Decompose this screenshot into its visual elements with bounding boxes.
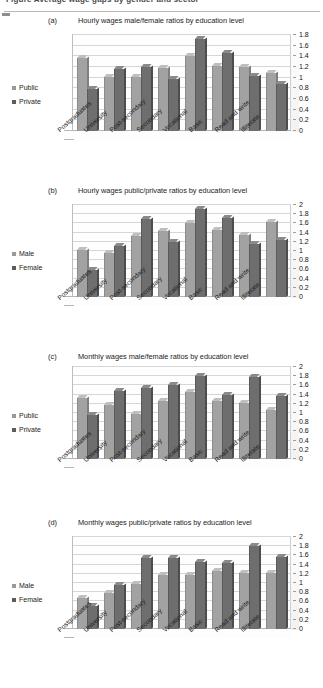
legend-swatch-icon <box>12 584 16 588</box>
y-axis-tick-mark <box>293 412 296 413</box>
y-axis-tick-mark <box>293 366 296 367</box>
bar-group <box>182 34 209 131</box>
legend-item[interactable]: Female <box>12 596 64 603</box>
legend-swatch-icon <box>12 100 16 104</box>
legend-item[interactable]: Male <box>12 250 64 257</box>
y-axis-tick-label: 0.8 <box>299 84 309 91</box>
legend-item[interactable]: Private <box>12 98 64 105</box>
y-axis-tick-mark <box>293 241 296 242</box>
plot-floor <box>64 458 291 468</box>
y-axis-tick-mark <box>293 87 296 88</box>
y-axis-tick-label: 0.2 <box>299 445 309 452</box>
bar-face <box>77 398 87 459</box>
bar-face <box>185 56 195 131</box>
y-axis-tick-label: 1 <box>299 73 303 80</box>
panel-letter: (a) <box>48 16 57 25</box>
bar[interactable] <box>185 389 195 459</box>
y-axis-tick-mark <box>293 250 296 251</box>
y-axis: 21.81.61.41.210.80.60.40.20 <box>293 536 323 630</box>
bar-group <box>262 536 289 629</box>
y-axis-tick-label: 0.4 <box>299 105 309 112</box>
y-axis-tick-mark <box>293 55 296 56</box>
y-axis-tick-label: 1.2 <box>299 63 309 70</box>
legend-label: Male <box>19 250 34 257</box>
bar-side <box>205 561 207 629</box>
y-axis-tick-mark <box>293 98 296 99</box>
y-axis: 21.81.61.41.210.80.60.40.20 <box>293 204 323 298</box>
legend-item[interactable]: Private <box>12 426 64 433</box>
y-axis-tick-label: 1.6 <box>299 551 309 558</box>
y-axis-tick-mark <box>293 582 296 583</box>
bar[interactable] <box>266 70 276 131</box>
y-axis-tick-label: 1.6 <box>299 41 309 48</box>
bar[interactable] <box>158 398 168 459</box>
y-axis-tick-mark <box>293 204 296 205</box>
legend-label: Private <box>19 98 41 105</box>
legend-label: Private <box>19 426 41 433</box>
legend-item[interactable]: Female <box>12 264 64 271</box>
y-axis-tick-mark <box>293 610 296 611</box>
y-axis-tick-mark <box>293 573 296 574</box>
y-axis-tick-label: 0.6 <box>299 427 309 434</box>
chart-legend: PublicPrivate <box>12 84 64 112</box>
y-axis-tick-mark <box>293 213 296 214</box>
y-axis-tick-label: 0 <box>299 625 303 632</box>
clipped-header-text: Figure Average wage gaps by gender and s… <box>6 0 199 4</box>
y-axis-tick-label: 1.4 <box>299 52 309 59</box>
legend-item[interactable]: Public <box>12 84 64 91</box>
y-axis-tick-mark <box>293 130 296 131</box>
bar[interactable] <box>266 407 276 459</box>
plot-floor <box>64 628 291 638</box>
bar-face <box>276 240 286 297</box>
chart-legend: MaleFemale <box>12 582 64 610</box>
bar[interactable] <box>212 227 222 297</box>
y-axis-tick-mark <box>293 458 296 459</box>
legend-item[interactable]: Male <box>12 582 64 589</box>
bar[interactable] <box>276 554 286 629</box>
bar[interactable] <box>77 55 87 131</box>
y-axis-tick-mark <box>293 619 296 620</box>
bar[interactable] <box>266 570 276 629</box>
y-axis-tick-mark <box>293 545 296 546</box>
bar-side <box>286 556 288 629</box>
legend-label: Public <box>19 412 38 419</box>
bar[interactable] <box>131 233 141 297</box>
y-axis-tick-label: 1.2 <box>299 569 309 576</box>
bar[interactable] <box>158 572 168 630</box>
y-axis-tick-label: 0.8 <box>299 418 309 425</box>
bar[interactable] <box>276 81 286 131</box>
bar[interactable] <box>266 219 276 297</box>
legend-label: Female <box>19 596 42 603</box>
bar[interactable] <box>276 393 286 459</box>
legend-swatch-icon <box>12 266 16 270</box>
bar[interactable] <box>185 53 195 131</box>
y-axis-tick-mark <box>293 268 296 269</box>
bar-face <box>276 84 286 131</box>
bar-face <box>266 410 276 459</box>
y-axis-tick-label: 1.4 <box>299 560 309 567</box>
y-axis-tick-label: 0.4 <box>299 606 309 613</box>
y-axis-tick-mark <box>293 430 296 431</box>
y-axis-tick-mark <box>293 600 296 601</box>
y-axis-tick-mark <box>293 421 296 422</box>
bar-face <box>104 405 114 460</box>
bar[interactable] <box>195 206 205 297</box>
y-axis-tick-label: 2 <box>299 363 303 370</box>
bar[interactable] <box>195 373 205 459</box>
legend-label: Female <box>19 264 42 271</box>
bar[interactable] <box>158 228 168 297</box>
bar[interactable] <box>185 220 195 297</box>
chart-panel-a: (a)Hourly wages male/female ratios by ed… <box>0 16 323 30</box>
bar[interactable] <box>276 237 286 297</box>
panel-header: (c)Monthly wages male/female ratios by e… <box>0 352 323 366</box>
bar[interactable] <box>77 395 87 459</box>
y-axis-tick-label: 0.8 <box>299 588 309 595</box>
y-axis-tick-label: 0.8 <box>299 256 309 263</box>
legend-item[interactable]: Public <box>12 412 64 419</box>
y-axis-tick-label: 0.6 <box>299 265 309 272</box>
bar-face <box>276 396 286 459</box>
panel-letter: (b) <box>48 186 57 195</box>
bar[interactable] <box>104 402 114 460</box>
bar[interactable] <box>195 36 205 131</box>
bar-face <box>266 222 276 297</box>
